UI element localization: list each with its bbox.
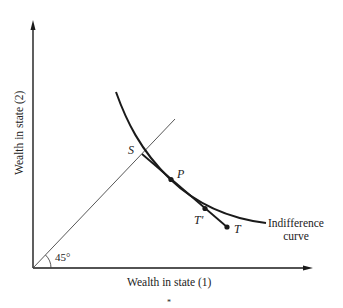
angle-label: 45° — [55, 252, 70, 263]
x-axis-label: Wealth in state (1) — [127, 277, 211, 289]
point-t-label: T — [234, 223, 241, 235]
curve-label-line1: Indifference — [268, 217, 324, 230]
y-axis-arrow-icon — [31, 20, 36, 30]
indifference-curve-label: Indifference curve — [268, 217, 324, 243]
point-t-prime-marker — [202, 206, 207, 211]
point-t-prime-label: T′ — [194, 214, 203, 226]
diagram-canvas — [0, 0, 343, 308]
angle-arc — [46, 255, 52, 268]
curve-label-line2: curve — [268, 230, 324, 243]
certainty-line-45deg — [33, 119, 175, 268]
point-p-label: P — [177, 168, 184, 180]
point-s-label: S — [128, 144, 134, 156]
point-t-marker — [224, 224, 229, 229]
opportunity-line — [142, 154, 227, 227]
indifference-curve-diagram: Wealth in state (2) Wealth in state (1) … — [0, 0, 343, 308]
x-axis-arrow-icon — [303, 266, 313, 271]
footer-mark: * — [167, 299, 171, 307]
y-axis-label: Wealth in state (2) — [14, 91, 26, 175]
point-p-marker — [168, 177, 173, 182]
